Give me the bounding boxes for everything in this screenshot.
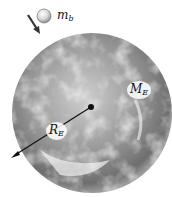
earth-globe bbox=[0, 20, 172, 197]
earth-radius-label: RE bbox=[46, 122, 67, 140]
earth-radius-subscript: E bbox=[58, 129, 64, 138]
ball-object bbox=[37, 9, 51, 23]
earth-mass-symbol: M bbox=[130, 82, 142, 96]
diagram-canvas bbox=[0, 0, 172, 197]
ball-mass-subscript: b bbox=[68, 14, 73, 23]
ball-mass-label: mb bbox=[57, 9, 74, 23]
earth-radius-symbol: R bbox=[49, 123, 58, 137]
ball-mass-symbol: m bbox=[57, 8, 68, 22]
earth-mass-label: ME bbox=[127, 81, 151, 99]
earth-mass-subscript: E bbox=[142, 88, 148, 97]
